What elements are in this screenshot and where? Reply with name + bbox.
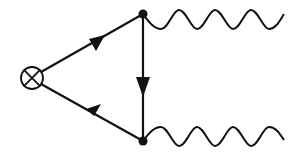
feynman-diagram	[0, 0, 298, 163]
photon-line-bottom	[143, 127, 284, 146]
vertex-top	[139, 10, 148, 19]
operator-insertion-icon	[21, 67, 43, 89]
arrow-down-icon	[136, 77, 150, 97]
arrow-upper-icon	[89, 35, 105, 51]
photon-line-top	[143, 10, 284, 29]
arrow-lower-icon	[86, 104, 101, 116]
vertex-bottom	[139, 137, 148, 146]
